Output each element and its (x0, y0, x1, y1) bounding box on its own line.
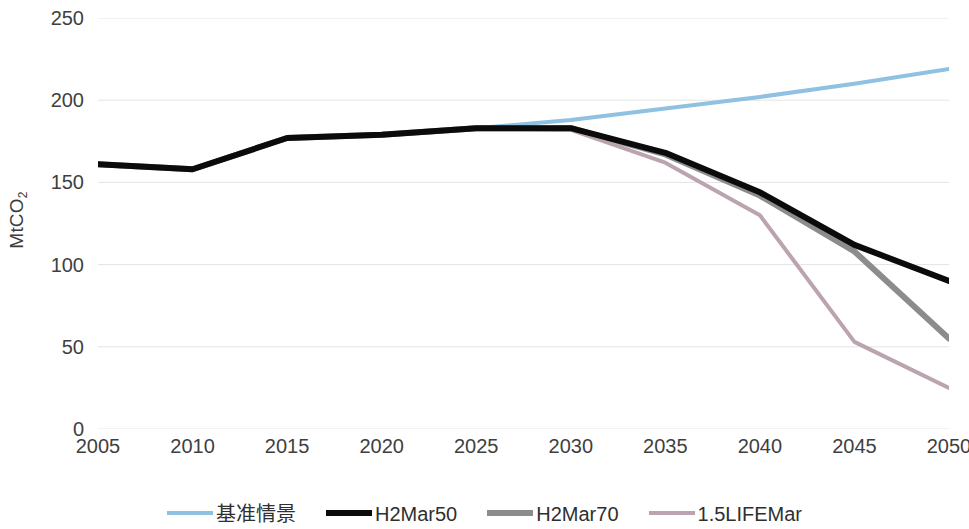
legend-label: 基准情景 (216, 503, 296, 525)
x-axis-tick-label: 2045 (832, 434, 877, 458)
x-axis-tick-label: 2020 (359, 434, 404, 458)
chart-svg (98, 18, 949, 429)
x-axis-tick-label: 2025 (454, 434, 499, 458)
x-axis-tick-labels: 2005201020152020202520302035204020452050 (98, 434, 949, 468)
legend-label: H2Mar50 (375, 503, 457, 525)
legend-swatch (326, 505, 372, 523)
y-axis-tick-label: 200 (22, 90, 84, 110)
y-axis-tick-labels: 250200150100500 (22, 0, 84, 450)
series-line (98, 128, 949, 281)
y-axis-tick-label: 0 (22, 419, 84, 439)
series-line (98, 128, 949, 388)
legend-item[interactable]: 1.5LIFEMar (649, 503, 802, 525)
series-line (98, 69, 949, 169)
chart-root: MtCO2 250200150100500 200520102015202020… (0, 0, 969, 529)
plot-area (98, 18, 949, 429)
y-axis-tick-label: 150 (22, 172, 84, 192)
legend-swatch (487, 505, 533, 523)
legend-item[interactable]: 基准情景 (167, 503, 296, 525)
legend-label: H2Mar70 (536, 503, 618, 525)
y-axis-tick-label: 50 (22, 337, 84, 357)
series-lines (98, 69, 949, 388)
x-axis-tick-label: 2040 (738, 434, 783, 458)
y-axis-tick-label: 250 (22, 8, 84, 28)
chart-legend: 基准情景H2Mar50H2Mar701.5LIFEMar (0, 498, 969, 529)
legend-item[interactable]: H2Mar50 (326, 503, 457, 525)
legend-swatch (649, 505, 695, 523)
x-axis-tick-label: 2035 (643, 434, 688, 458)
x-axis-tick-label: 2005 (76, 434, 121, 458)
legend-item[interactable]: H2Mar70 (487, 503, 618, 525)
legend-label: 1.5LIFEMar (698, 503, 802, 525)
x-axis-tick-label: 2010 (170, 434, 215, 458)
y-axis-tick-label: 100 (22, 255, 84, 275)
legend-swatch (167, 505, 213, 523)
x-axis-tick-label: 2015 (265, 434, 310, 458)
x-axis-tick-label: 2050 (927, 434, 969, 458)
x-axis-tick-label: 2030 (549, 434, 594, 458)
